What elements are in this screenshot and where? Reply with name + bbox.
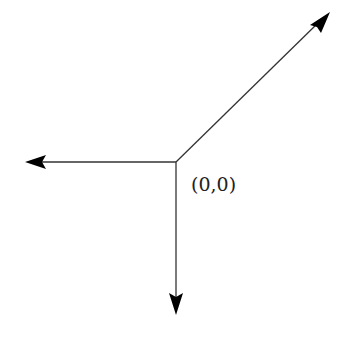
vector-up-right: [176, 23, 318, 162]
origin-label: (0,0): [191, 173, 236, 195]
arrowhead-up-right-icon: [310, 12, 330, 33]
vector-diagram: [0, 0, 347, 339]
